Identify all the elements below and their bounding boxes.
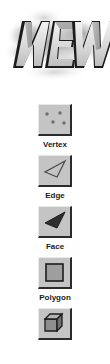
vertex-points-icon (39, 105, 70, 134)
edge-mode-button[interactable] (38, 155, 72, 187)
tool-item-polygon[interactable]: Polygon (0, 257, 110, 303)
tool-label-edge: Edge (45, 190, 65, 201)
selection-mode-palette: Vertex Edge Face Polygon (0, 104, 110, 348)
tool-item-vertex[interactable]: Vertex (0, 104, 110, 150)
object-mode-button[interactable] (38, 308, 72, 340)
tool-label-face: Face (46, 241, 64, 252)
polygon-square-icon (39, 258, 70, 287)
face-mode-button[interactable] (38, 206, 72, 238)
tool-label-polygon: Polygon (39, 292, 71, 303)
polygon-mode-button[interactable] (38, 257, 72, 289)
tool-item-edge[interactable]: Edge (0, 155, 110, 201)
tool-item-face[interactable]: Face (0, 206, 110, 252)
object-cube-icon (39, 309, 70, 338)
face-filled-triangle-icon (39, 207, 70, 236)
new-logo-banner (0, 0, 110, 100)
new-logo-graphic (0, 0, 110, 100)
vertex-mode-button[interactable] (38, 104, 72, 136)
edge-triangle-outline-icon (39, 156, 70, 185)
tool-item-object[interactable] (0, 308, 110, 343)
tool-label-vertex: Vertex (43, 139, 67, 150)
